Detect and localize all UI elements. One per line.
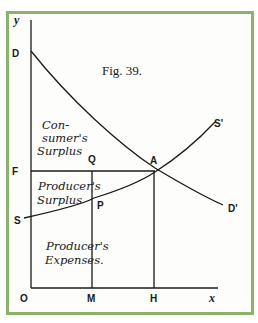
x-axis-label: x [208,291,215,305]
producer-surplus-line1: Producer's [37,179,101,193]
producer-expenses-line1: Producer's [45,239,109,253]
point-D-prime-label: D' [228,203,238,214]
consumer-surplus-line1: Con- [42,118,69,132]
consumer-surplus-line3: Surplus [37,144,82,158]
y-axis-label: y [12,13,20,27]
producer-expenses-line2: Expenses. [44,253,104,267]
point-M-label: M [87,293,95,304]
point-Q-label: Q [88,154,96,165]
point-F-label: F [12,166,18,177]
point-D-label: D [12,48,19,59]
point-H-label: H [150,293,157,304]
figure-title: Fig. 39. [102,63,142,78]
point-P-label: P [97,200,104,211]
point-S-prime-label: S' [214,118,223,129]
consumer-surplus-line2: sumer's [42,131,88,145]
point-A-label: A [150,155,157,166]
origin-O-label: O [20,293,28,304]
point-S-label: S [14,215,21,226]
supply-demand-diagram: y Fig. 39. D F S Q A P S' D' O M H x Con… [0,0,258,323]
producer-surplus-line2: Surplus [37,193,82,207]
